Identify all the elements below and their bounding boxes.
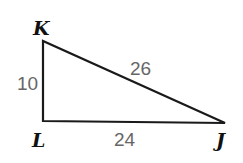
vertex-label-l: L [31,129,45,151]
vertex-label-k: K [32,17,51,39]
side-label-kj: 26 [130,58,151,79]
triangle-klj [43,41,225,123]
vertex-label-j: J [213,129,227,151]
side-label-lj: 24 [114,129,136,150]
side-label-kl: 10 [17,73,38,94]
triangle-diagram: K L J 10 24 26 [0,0,243,163]
